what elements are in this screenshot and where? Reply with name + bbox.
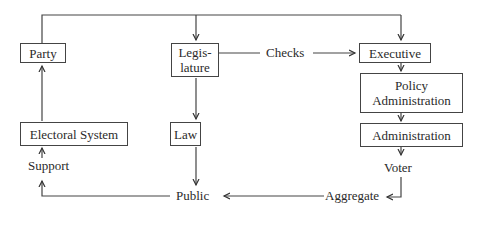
node-legislature: Legis- lature <box>171 43 219 77</box>
node-administration: Administration <box>360 123 463 147</box>
label-voter: Voter <box>384 160 412 175</box>
node-party-label: Party <box>29 46 56 61</box>
label-aggregate: Aggregate <box>325 188 379 203</box>
node-policy-administration-line1: Policy <box>395 78 428 93</box>
node-policy-administration: Policy Administration <box>360 73 463 113</box>
node-electoral-system: Electoral System <box>20 122 128 146</box>
node-policy-administration-line2: Administration <box>372 93 451 108</box>
node-executive-label: Executive <box>369 46 421 61</box>
node-electoral-system-label: Electoral System <box>30 127 118 142</box>
node-law: Law <box>170 122 201 146</box>
label-checks: Checks <box>266 45 304 60</box>
node-executive: Executive <box>359 43 431 63</box>
node-party: Party <box>20 43 66 63</box>
node-administration-label: Administration <box>372 128 451 143</box>
node-legislature-line1: Legis- <box>178 45 211 60</box>
label-support: Support <box>28 158 69 173</box>
node-law-label: Law <box>174 127 197 142</box>
node-legislature-line2: lature <box>180 60 210 75</box>
label-public: Public <box>176 188 209 203</box>
